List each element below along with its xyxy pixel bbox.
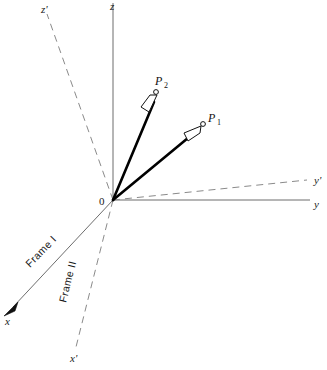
vector-p1-arrowhead-icon bbox=[184, 126, 201, 141]
point-label-p2-subscript: 2 bbox=[164, 81, 168, 90]
axis-x-arrowhead-icon bbox=[4, 302, 18, 316]
frame-ii-axes bbox=[47, 14, 307, 347]
point-p1-marker bbox=[201, 122, 206, 127]
axis-y-prime-line bbox=[113, 180, 307, 200]
point-label-p2: P 2 bbox=[154, 74, 168, 90]
point-label-p1-subscript: 1 bbox=[217, 118, 221, 127]
axis-label-z-prime: z' bbox=[40, 3, 48, 15]
point-label-p1-letter: P bbox=[207, 111, 216, 125]
position-vector-p1 bbox=[113, 122, 205, 200]
position-vector-p2 bbox=[113, 90, 158, 200]
point-label-p1: P 1 bbox=[207, 111, 221, 127]
figure-canvas: z z' y' y x x' 0 P 2 P 1 Frame I Frame I… bbox=[0, 0, 327, 370]
axis-label-y: y bbox=[313, 198, 319, 210]
axis-x-prime-line bbox=[76, 200, 113, 347]
frame-i-axes bbox=[4, 3, 310, 316]
point-p2-marker bbox=[154, 90, 159, 95]
axis-z-prime-line bbox=[47, 14, 113, 200]
vector-p1-shaft bbox=[113, 133, 194, 200]
point-label-p2-letter: P bbox=[154, 74, 163, 88]
axis-label-y-prime: y' bbox=[313, 174, 322, 186]
coordinate-frames-diagram: z z' y' y x x' 0 P 2 P 1 Frame I Frame I… bbox=[0, 0, 327, 370]
frame-ii-caption: Frame II bbox=[56, 260, 78, 304]
axis-label-x-prime: x' bbox=[69, 352, 78, 364]
axis-label-z: z bbox=[109, 0, 115, 12]
origin-label: 0 bbox=[99, 195, 105, 207]
axis-label-x: x bbox=[4, 315, 10, 327]
vector-p2-shaft bbox=[113, 102, 154, 200]
